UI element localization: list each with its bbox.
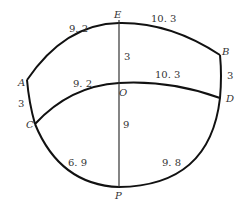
segment-ac (27, 80, 35, 124)
curve-cod (35, 83, 220, 124)
measure-ac: 3 (18, 98, 24, 109)
point-label-d: D (225, 93, 234, 104)
measure-bd: 3 (227, 70, 233, 81)
measure-ae: 9. 2 (69, 23, 88, 34)
measure-eo: 3 (124, 51, 130, 62)
measure-co: 9. 2 (73, 78, 92, 89)
point-label-a: A (17, 77, 25, 88)
measure-pd: 9. 8 (162, 157, 181, 168)
point-label-b: B (221, 46, 229, 57)
measure-od: 10. 3 (155, 69, 180, 80)
measure-cp: 6. 9 (68, 157, 87, 168)
segment-bd (220, 55, 221, 98)
point-label-p: P (114, 190, 122, 201)
curve-cp (35, 124, 119, 187)
pattern-diagram: E A B C D O P 9. 2 10. 3 3 3 3 9. 2 10. … (0, 0, 245, 209)
measure-op: 9 (123, 119, 129, 130)
curve-pd (119, 98, 220, 187)
point-label-c: C (26, 119, 34, 130)
point-label-o: O (119, 87, 127, 98)
point-label-e: E (113, 9, 122, 20)
diagram-canvas: E A B C D O P 9. 2 10. 3 3 3 3 9. 2 10. … (0, 0, 245, 209)
measure-eb: 10. 3 (151, 13, 176, 24)
